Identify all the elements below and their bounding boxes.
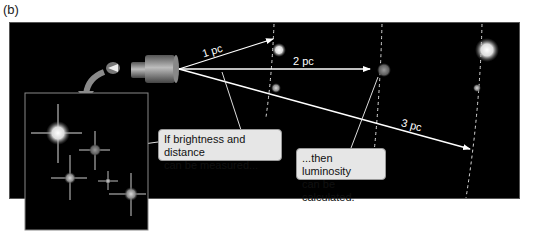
label-2pc: 2 pc [293,55,314,67]
curved-arrow-icon [86,72,104,94]
inset-sky-view [25,93,148,230]
star-1pc-bright [272,43,286,57]
inset-star-target [89,144,101,156]
diagram-canvas: 1 pc 2 pc 3 pc [0,0,534,240]
arrow-1pc [179,39,273,69]
star-3pc-large [475,38,499,62]
callout-luminosity: ...then luminosity can be calculated. [296,148,386,180]
distance-arc-1pc [266,24,274,117]
star-2pc [377,63,391,77]
label-1pc: 1 pc [200,42,224,60]
eye-icon [106,62,120,74]
callout-brightness-distance: If brightness and distance can be measur… [158,129,282,161]
star-3pc-small [473,84,481,92]
star-1pc-small [271,83,281,93]
telescope-icon [131,55,179,83]
